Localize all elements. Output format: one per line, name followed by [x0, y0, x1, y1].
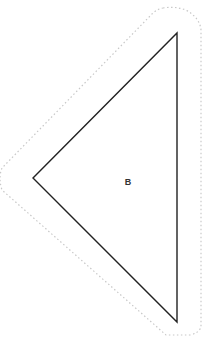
shape-label: B: [125, 177, 132, 187]
triangle-shape[interactable]: [33, 33, 177, 322]
diagram-canvas: B: [0, 0, 206, 337]
